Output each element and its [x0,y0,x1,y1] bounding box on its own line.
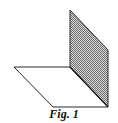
dihedral-angle-diagram [0,0,118,123]
figure-caption: Fig. 1 [0,107,118,121]
